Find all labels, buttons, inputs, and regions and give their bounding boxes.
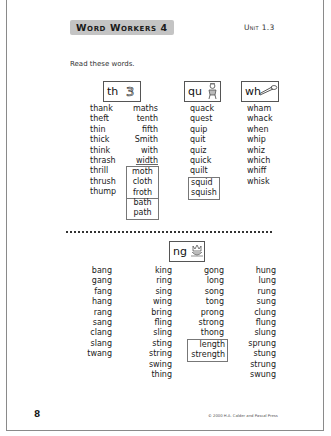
word: sting — [140, 339, 172, 349]
word: length — [190, 340, 225, 350]
qu-header-box: qu — [184, 81, 221, 102]
word: wham — [247, 104, 273, 114]
word: cloth — [129, 177, 156, 187]
word: whiz — [247, 146, 273, 156]
word: clang — [80, 328, 112, 338]
word: swung — [244, 370, 276, 380]
section-divider — [66, 231, 272, 233]
word: hang — [80, 297, 112, 307]
word: squid — [191, 178, 217, 188]
word: fang — [80, 287, 112, 297]
word: quip — [190, 125, 214, 135]
queen-icon — [207, 83, 218, 106]
word: hung — [244, 266, 276, 276]
word: moth — [129, 167, 156, 177]
word: sprung — [244, 339, 276, 349]
word: theft — [90, 114, 116, 124]
word: lung — [244, 276, 276, 286]
page-number: 8 — [34, 409, 40, 419]
word: thing — [140, 370, 172, 380]
word: tenth — [126, 114, 158, 124]
word: whisk — [247, 177, 273, 187]
word: sung — [244, 297, 276, 307]
th-label: th — [107, 85, 118, 98]
word: strength — [190, 350, 225, 360]
word: string — [140, 349, 172, 359]
ng-boxed-group: length strength — [187, 339, 228, 362]
word: path — [129, 208, 156, 218]
th-boxed-group-a: moth cloth froth — [126, 166, 159, 199]
th-header-box: th 3 — [103, 81, 141, 102]
word: swing — [140, 360, 172, 370]
whistle-icon — [258, 83, 278, 102]
word: slang — [80, 339, 112, 349]
qu-label: qu — [188, 85, 202, 98]
word: wing — [140, 297, 172, 307]
word: froth — [129, 188, 156, 198]
word: maths — [126, 104, 158, 114]
word: sing — [140, 287, 172, 297]
ng-label: ng — [173, 245, 187, 258]
word: think — [90, 146, 116, 156]
ng-words-col4: hung lung rung sung clung flung slung sp… — [244, 266, 276, 380]
word: rung — [244, 287, 276, 297]
word: thrill — [90, 166, 116, 176]
word: rang — [80, 308, 112, 318]
word: Smith — [126, 135, 158, 145]
word: thank — [90, 104, 116, 114]
word: quest — [190, 114, 214, 124]
word: quick — [190, 156, 214, 166]
word: whiff — [247, 166, 273, 176]
word: thin — [90, 125, 116, 135]
word: which — [247, 156, 273, 166]
word: quack — [190, 104, 214, 114]
word: slung — [244, 328, 276, 338]
word: thrush — [90, 177, 116, 187]
word: fifth — [126, 125, 158, 135]
word: bang — [80, 266, 112, 276]
word: stung — [244, 349, 276, 359]
word: gang — [80, 276, 112, 286]
ng-header-box: ng — [169, 241, 205, 262]
th-words-col2: maths tenth fifth Smith with width — [126, 104, 158, 166]
instruction-text: Read these words. — [70, 60, 135, 68]
word: strung — [244, 360, 276, 370]
word: thump — [90, 187, 116, 197]
qu-words: quack quest quip quit quiz quick quilt — [190, 104, 214, 177]
ng-words-col3: gong long song tong prong strong thong — [190, 266, 224, 339]
th-words-col1: thank theft thin thick think thrash thri… — [90, 104, 116, 198]
word: flung — [244, 318, 276, 328]
word: thong — [190, 328, 224, 338]
word: fling — [140, 318, 172, 328]
word: tong — [190, 297, 224, 307]
word: whack — [247, 114, 273, 124]
numeral-three-icon: 3 — [126, 82, 134, 101]
word: quilt — [190, 166, 214, 176]
word: sling — [140, 328, 172, 338]
word: quit — [190, 135, 214, 145]
word: thrash — [90, 156, 116, 166]
word: ring — [140, 276, 172, 286]
word: width — [126, 156, 158, 166]
word: bring — [140, 308, 172, 318]
word: gong — [190, 266, 224, 276]
ng-words-col2: king ring sing wing bring fling sling st… — [140, 266, 172, 380]
word: thick — [90, 135, 116, 145]
wh-words: wham whack when whip whiz which whiff wh… — [247, 104, 273, 187]
word: clung — [244, 308, 276, 318]
word: squish — [191, 188, 217, 198]
word: king — [140, 266, 172, 276]
qu-boxed-group: squid squish — [188, 177, 220, 200]
king-crown-icon — [190, 243, 204, 266]
word: bath — [129, 198, 156, 208]
word: song — [190, 287, 224, 297]
word: strong — [190, 318, 224, 328]
word: twang — [80, 349, 112, 359]
page-title: Word Workers 4 — [70, 20, 174, 35]
wh-header-box: wh — [241, 81, 279, 102]
word: prong — [190, 308, 224, 318]
copyright-notice: © 2000 H.A. Calder and Pascal Press — [208, 413, 278, 418]
ng-words-col1: bang gang fang hang rang sang clang slan… — [80, 266, 112, 360]
word: sang — [80, 318, 112, 328]
th-boxed-group-b: bath path — [126, 198, 159, 220]
